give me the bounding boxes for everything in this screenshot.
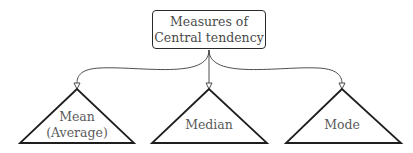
node-mode: Mode — [302, 117, 382, 133]
root-node-label: Measures of Central tendency — [153, 14, 265, 46]
arrowheads — [74, 83, 345, 89]
node-mean: Mean (Average) — [37, 109, 117, 141]
root-node: Measures of Central tendency — [152, 10, 266, 49]
node-median: Median — [169, 117, 249, 133]
node-median-label: Median — [169, 117, 249, 133]
connector-mode — [209, 50, 342, 84]
triangle-median — [152, 89, 267, 143]
connectors — [77, 50, 342, 84]
triangle-mode — [286, 89, 401, 143]
node-mean-sublabel: (Average) — [37, 125, 117, 141]
node-mode-label: Mode — [302, 117, 382, 133]
node-mean-label: Mean — [37, 109, 117, 125]
connector-mean — [77, 50, 209, 84]
